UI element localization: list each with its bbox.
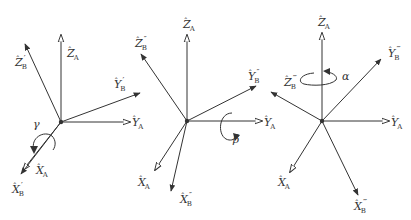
frame-2-label-z-a: ZˆA	[182, 17, 196, 33]
frame-1	[21, 35, 140, 174]
frame-3-origin-dot	[320, 119, 324, 123]
frame-2	[141, 35, 262, 191]
frame-2-label-x-a: XˆA	[137, 175, 151, 191]
frame-3-label-y-a: YˆA	[391, 115, 403, 131]
frame-1-axis-y-b	[61, 93, 140, 122]
frame-3-label-x-a: XˆA	[277, 175, 291, 191]
frame-1-label-z-a: ZˆA	[66, 46, 80, 62]
frame-2-axis-z-b	[141, 54, 187, 121]
frame-1-rotation-symbol: γ	[33, 118, 40, 131]
rotation-alpha-arrow	[300, 68, 336, 85]
frame-3-axis-z-b	[271, 92, 322, 121]
frame-3-axis-x-b	[322, 121, 358, 195]
frame-2-label-y-a: YˆA	[264, 115, 276, 131]
labels-layer: ZˆAZˆB′YˆB′YˆAXˆAXˆB′γZˆAZˆB″YˆB″YˆAXˆAX…	[11, 15, 403, 215]
frame-2-origin-dot	[185, 119, 189, 123]
frame-3-label-x-b: XˆB‴	[353, 197, 367, 215]
frame-3-label-z-b: ZˆB‴	[283, 73, 297, 91]
diagram-canvas: ZˆAZˆB′YˆB′YˆAXˆAXˆB′γZˆAZˆB″YˆB″YˆAXˆAX…	[0, 0, 411, 220]
frame-1-label-y-b: YˆB′	[114, 75, 125, 93]
frame-1-label-z-b: ZˆB′	[14, 53, 27, 71]
frame-2-label-z-b: ZˆB″	[134, 34, 147, 52]
frame-3-axis-y-b	[322, 59, 381, 121]
frame-3-label-z-a: ZˆA	[317, 15, 331, 31]
frame-1-axis-z-b	[25, 44, 61, 122]
rotation-gamma-arrow	[30, 134, 55, 154]
frame-2-axis-x-a	[155, 121, 187, 170]
frame-3-axis-x-a	[290, 121, 322, 172]
frame-1-label-x-a: XˆA	[35, 163, 49, 179]
frame-3-label-y-b: YˆB‴	[388, 44, 401, 62]
frame-2-axis-x-b	[171, 121, 187, 191]
frame-2-label-y-b: YˆB″	[248, 67, 259, 85]
frame-1-origin-dot	[59, 120, 63, 124]
frame-2-rotation-symbol: β	[232, 133, 239, 146]
frame-3-rotation-symbol: α	[342, 70, 350, 83]
euler-rotation-diagram: ZˆAZˆB′YˆB′YˆAXˆAXˆB′γZˆAZˆB″YˆB″YˆAXˆAX…	[0, 0, 411, 220]
frame-1-label-x-b: XˆB′	[11, 180, 24, 198]
frame-2-label-x-b: XˆB″	[179, 190, 192, 208]
frame-3	[271, 33, 389, 195]
frame-2-axis-y-b	[187, 86, 256, 121]
frame-1-label-y-a: YˆA	[132, 115, 144, 131]
